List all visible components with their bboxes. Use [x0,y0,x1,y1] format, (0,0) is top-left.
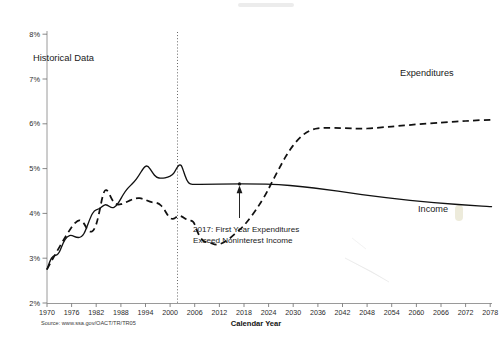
x-tick-label-1970: 1970 [39,309,55,317]
x-tick-label-2060: 2060 [409,309,425,317]
x-tick-label-2072: 2072 [458,309,474,317]
series-expenditures-line [47,120,492,269]
scan-artifact-top [238,3,294,7]
historical-data-label: Historical Data [33,52,95,63]
x-tick-label-2036: 2036 [310,309,326,317]
x-tick-label-1976: 1976 [64,309,80,317]
crossover-callout-line2: Exceed Noninterest Income [193,236,293,245]
scan-artifact-pen [345,258,389,282]
y-tick-label-3: 3% [29,254,40,263]
y-tick-label-7: 7% [29,75,40,84]
crossover-callout-line1: 2017: First Year Expenditures [193,225,299,234]
y-tick-label-4: 4% [29,209,40,218]
y-axis-ticks [43,34,48,303]
x-tick-label-1988: 1988 [113,309,129,317]
y-tick-label-6: 6% [29,119,40,128]
x-tick-label-1994: 1994 [138,309,154,317]
x-tick-label-2006: 2006 [187,309,203,317]
x-tick-label-2054: 2054 [384,309,400,317]
x-tick-label-2000: 2000 [162,309,178,317]
y-tick-label-8: 8% [29,30,40,39]
x-tick-label-2018: 2018 [236,309,252,317]
x-axis-ticks [47,304,490,308]
x-tick-label-1982: 1982 [88,309,104,317]
chart-container: 8% 7% 6% 5% 4% 3% 2% [0,0,502,338]
x-tick-label-2066: 2066 [433,309,449,317]
x-tick-label-2042: 2042 [335,309,351,317]
x-axis-title: Calendar Year [231,319,282,328]
x-tick-label-2078: 2078 [482,309,498,317]
income-series-label: Income [418,204,448,214]
expenditures-series-label: Expenditures [400,68,454,78]
scan-artifact-pen-2 [352,238,366,249]
crossover-point-marker [238,182,241,185]
x-tick-label-2012: 2012 [212,309,228,317]
x-tick-label-2024: 2024 [261,309,277,317]
crossover-callout-arrow [237,186,243,219]
y-tick-label-5: 5% [29,164,40,173]
x-tick-label-2048: 2048 [359,309,375,317]
y-axis: 8% 7% 6% 5% 4% 3% 2% [29,30,47,308]
source-note: Source: www.ssa.gov/OACT/TR/TR05 [41,320,136,326]
x-tick-label-2030: 2030 [285,309,301,317]
chart-svg: 8% 7% 6% 5% 4% 3% 2% [0,0,502,338]
series-income-line [47,165,492,269]
y-tick-label-2: 2% [29,299,40,308]
scan-artifact-right [455,205,463,221]
